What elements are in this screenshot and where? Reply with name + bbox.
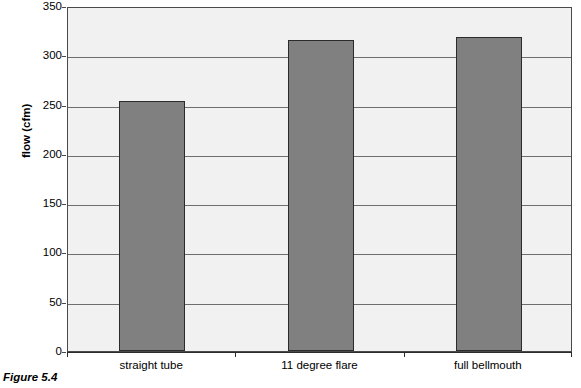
y-axis-tick-label: 0 [16,346,62,357]
y-axis-tick-label: 250 [16,100,62,111]
y-axis-tick-mark [62,155,66,156]
y-axis-tick-label: 150 [16,198,62,209]
y-axis-tick-label: 100 [16,247,62,258]
x-axis-tick-mark [235,352,236,357]
y-axis-tick-mark [62,204,66,205]
x-axis-category-label: full bellmouth [454,359,522,371]
y-axis-tick-label: 300 [16,50,62,61]
y-axis-tick-mark [62,352,66,353]
figure-container: flow (cfm) 050100150200250300350 straigh… [0,0,581,388]
bar [119,101,185,351]
y-axis-tick-mark [62,56,66,57]
y-axis-tick-label: 350 [16,1,62,12]
bar [456,37,522,351]
x-axis-tick-mark [571,352,572,357]
y-axis-tick-mark [62,253,66,254]
y-axis-tick-label: 50 [16,297,62,308]
y-axis-tick-labels: 050100150200250300350 [12,7,62,352]
x-axis-category-label: straight tube [120,359,183,371]
y-axis-tick-label: 200 [16,149,62,160]
x-axis-line [67,352,572,353]
plot-area [67,7,572,352]
plot-inner [68,8,571,351]
bar [288,40,354,351]
y-axis-tick-mark [62,7,66,8]
x-axis-tick-mark [67,352,68,357]
y-axis-tick-mark [62,303,66,304]
y-axis-tick-mark [62,106,66,107]
x-axis-tick-mark [404,352,405,357]
figure-caption: Figure 5.4 [3,371,57,383]
x-axis-category-label: 11 degree flare [281,359,358,371]
